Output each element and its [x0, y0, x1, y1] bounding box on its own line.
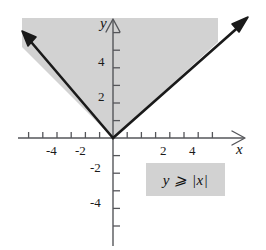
y-tick-label-neg4: -4: [90, 196, 101, 209]
y-tick-label-pos2: 2: [98, 90, 105, 103]
y-axis-label: y: [100, 16, 107, 31]
x-axis-label: x: [236, 142, 243, 157]
x-tick-label-pos4: 4: [189, 144, 196, 157]
x-tick-label-neg2: -2: [75, 144, 86, 157]
inequality-label-text: y ⩾ |x|: [163, 171, 209, 189]
inequality-label-box: y ⩾ |x|: [146, 163, 225, 196]
x-tick-label-neg4: -4: [46, 144, 57, 157]
y-tick-label-pos4: 4: [98, 55, 105, 68]
x-tick-label-pos2: 2: [160, 144, 167, 157]
absolute-value-inequality-figure: -4 -2 2 4 4 2 -2 -4 y x y ⩾ |x|: [0, 0, 266, 250]
y-tick-label-neg2: -2: [90, 161, 101, 174]
graph-canvas: [0, 0, 266, 250]
